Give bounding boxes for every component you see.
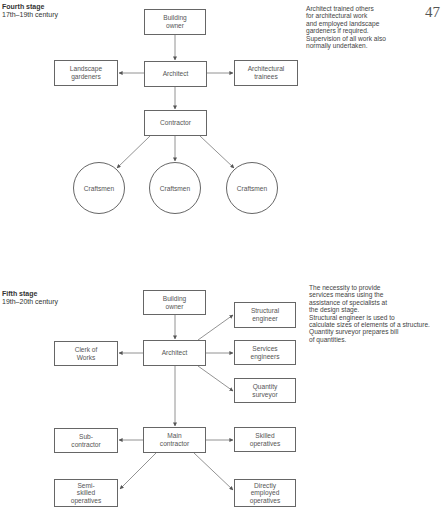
node-structural-engineer: Structural engineer [234, 302, 296, 328]
fourth-stage-period: 17th–19th century [2, 11, 58, 18]
node-building-owner-5: Building owner [143, 290, 206, 315]
node-building-owner-4: Building owner [144, 9, 206, 35]
fourth-stage-note: Architect trained others for architectur… [306, 5, 436, 49]
node-craftsmen-2: Craftsmen [149, 162, 201, 214]
node-contractor: Contractor [144, 110, 207, 136]
fifth-stage-period: 19th–20th century [2, 298, 58, 305]
node-landscape-gardeners: Landscape gardeners [54, 60, 118, 86]
fifth-stage-title: Fifth stage [2, 290, 58, 298]
node-semi-skilled-operatives: Semi- skilled operatives [54, 479, 118, 507]
node-architectural-trainees: Architectural trainees [234, 60, 298, 86]
fourth-stage-title: Fourth stage [2, 3, 58, 11]
node-directly-employed-operatives: Directly employed operatives [234, 479, 296, 507]
node-services-engineers: Services engineers [234, 340, 296, 365]
node-sub-contractor: Sub- contractor [54, 428, 118, 453]
node-skilled-operatives: Skilled operatives [234, 427, 296, 452]
fourth-stage-heading: Fourth stage 17th–19th century [2, 3, 58, 19]
fifth-stage-note: The necessity to provide services means … [309, 284, 446, 343]
node-architect-5: Architect [143, 340, 206, 366]
node-craftsmen-1: Craftsmen [73, 162, 125, 214]
node-quantity-surveyor: Quantity surveyor [234, 378, 296, 403]
node-main-contractor: Main contractor [143, 427, 206, 453]
node-craftsmen-3: Craftsmen [226, 162, 278, 214]
node-architect-4: Architect [144, 61, 207, 87]
fifth-stage-heading: Fifth stage 19th–20th century [2, 290, 58, 306]
node-clerk-of-works: Clerk of Works [54, 341, 118, 366]
